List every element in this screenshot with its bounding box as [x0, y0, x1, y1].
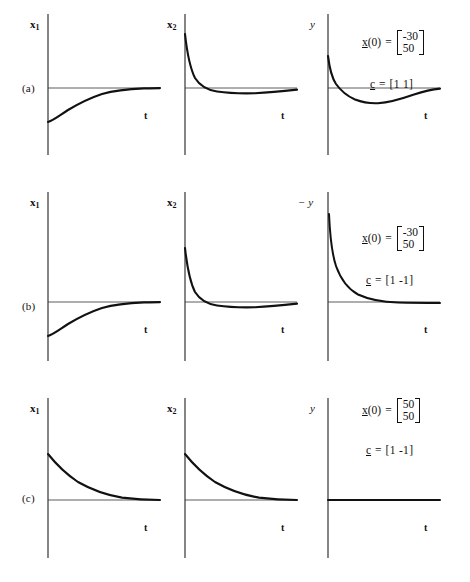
annot-b-output-equals: =	[375, 274, 382, 286]
annot-c-output-value: [1 -1]	[386, 444, 414, 456]
axis-label-b-x1: x1	[30, 196, 40, 210]
t-label-a-x2: t	[281, 110, 284, 121]
panel-a-x1: x1 t	[40, 0, 170, 165]
plot-a-x2	[177, 0, 307, 165]
t-label-b-x1: t	[144, 324, 147, 335]
annotation-a-initial-state: x(0) = -30 50	[362, 30, 424, 55]
figure-row-b: (b) x1 t x2 t − y t	[0, 196, 470, 376]
annot-a-state-val-1: 50	[403, 42, 418, 54]
annot-b-equals: =	[385, 232, 392, 244]
annot-a-output-equals: =	[379, 78, 386, 90]
axis-label-b-y: − y	[298, 196, 313, 208]
t-label-c-x2: t	[281, 522, 284, 533]
axis-label-a-x2: x2	[167, 18, 177, 32]
row-label-b: (b)	[22, 300, 35, 312]
axis-label-a-y: y	[310, 18, 315, 30]
plot-c-x1	[40, 380, 170, 570]
annot-b-output-value: [1 -1]	[386, 274, 414, 286]
plot-b-x1	[40, 196, 170, 371]
plot-b-x2	[177, 196, 307, 371]
annot-c-state-val-1: 50	[403, 410, 415, 422]
annot-b-state-val-1: 50	[403, 238, 418, 250]
figure-row-a: (a) x1 t x2 t y t	[0, 0, 470, 180]
annotation-a-output-vector: c = [1 1]	[370, 78, 413, 90]
axis-label-c-y: y	[310, 402, 315, 414]
axis-label-b-x2: x2	[167, 196, 177, 210]
annot-c-output-equals: =	[375, 444, 382, 456]
panel-c-x2: x2 t	[177, 380, 307, 570]
plot-a-x1	[40, 0, 170, 165]
axis-label-a-x1: x1	[30, 18, 40, 32]
plot-c-x2	[177, 380, 307, 570]
annot-a-equals: =	[385, 36, 392, 48]
annot-b-state-arg: (0)	[368, 232, 381, 244]
t-label-b-x2: t	[281, 324, 284, 335]
annotation-c-output-vector: c = [1 -1]	[366, 444, 413, 456]
annotation-b-initial-state: x(0) = -30 50	[362, 226, 424, 251]
row-label-a: (a)	[22, 82, 35, 94]
figure-row-c: (c) x1 t x2 t y t	[0, 380, 470, 580]
t-label-c-y: t	[424, 522, 427, 533]
annot-c-output-var: c	[366, 444, 371, 456]
panel-a-x2: x2 t	[177, 0, 307, 165]
annot-a-output-value: [1 1]	[390, 78, 414, 90]
t-label-c-x1: t	[144, 522, 147, 533]
annotation-c-initial-state: x(0) = 50 50	[362, 398, 420, 423]
t-label-a-y: t	[424, 110, 427, 121]
annot-c-equals: =	[385, 404, 392, 416]
annot-c-state-matrix: 50 50	[397, 398, 421, 423]
t-label-b-y: t	[424, 324, 427, 335]
annot-c-state-arg: (0)	[368, 404, 381, 416]
annot-c-state-val-0: 50	[403, 398, 415, 410]
annot-a-state-val-0: -30	[403, 30, 418, 42]
t-label-a-x1: t	[144, 110, 147, 121]
annot-b-output-var: c	[366, 274, 371, 286]
annotation-b-output-vector: c = [1 -1]	[366, 274, 413, 286]
panel-c-x1: x1 t	[40, 380, 170, 570]
annot-b-state-matrix: -30 50	[397, 226, 424, 251]
annot-a-state-arg: (0)	[368, 36, 381, 48]
figure-container: (a) x1 t x2 t y t	[0, 0, 470, 582]
annot-a-output-var: c	[370, 78, 375, 90]
annot-b-state-val-0: -30	[403, 226, 418, 238]
row-label-c: (c)	[22, 492, 35, 504]
panel-b-x1: x1 t	[40, 196, 170, 371]
annot-a-state-matrix: -30 50	[397, 30, 424, 55]
axis-label-c-x2: x2	[167, 402, 177, 416]
axis-label-c-x1: x1	[30, 402, 40, 416]
panel-b-x2: x2 t	[177, 196, 307, 371]
